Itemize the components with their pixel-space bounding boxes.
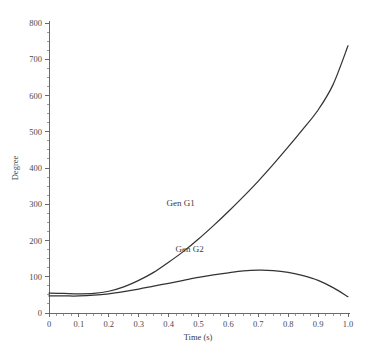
x-tick-label: 0.1 [74, 319, 85, 329]
y-tick-label: 200 [29, 236, 42, 246]
x-tick-label: 0.3 [133, 319, 144, 329]
y-tick-label: 700 [29, 54, 42, 64]
y-tick-label: 600 [29, 91, 42, 101]
x-tick-label: 0.2 [103, 319, 114, 329]
x-tick-label: 0 [47, 319, 51, 329]
x-tick-label: 0.8 [283, 319, 294, 329]
y-tick-label: 300 [29, 199, 42, 209]
x-tick-label: 0.9 [313, 319, 324, 329]
line-chart-svg: 0100200300400500600700800 00.10.20.30.40… [0, 0, 377, 355]
y-tick-label: 100 [29, 272, 42, 282]
x-tick-label: 0.5 [193, 319, 204, 329]
x-tick-label: 1.0 [343, 319, 354, 329]
y-tick-label: 400 [29, 163, 42, 173]
chart-figure: 0100200300400500600700800 00.10.20.30.40… [0, 0, 377, 355]
y-tick-label: 0 [38, 308, 42, 318]
y-tick-label: 800 [29, 18, 42, 28]
y-axis-title: Degree [10, 156, 20, 181]
series-annotation-2: Gen G2 [175, 244, 203, 254]
x-axis-title: Time (s) [184, 332, 213, 342]
x-tick-label: 0.7 [253, 319, 264, 329]
x-tick-label: 0.6 [223, 319, 234, 329]
chart-background [0, 0, 377, 355]
x-tick-label: 0.4 [163, 319, 174, 329]
series-annotation-1: Gen G1 [166, 198, 194, 208]
y-tick-label: 500 [29, 127, 42, 137]
